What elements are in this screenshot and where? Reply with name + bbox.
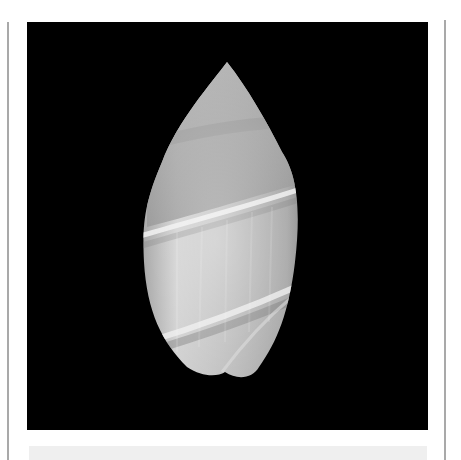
shell-photo bbox=[27, 22, 428, 430]
left-margin-rule bbox=[7, 22, 9, 460]
right-margin-rule bbox=[444, 20, 446, 460]
shell-illustration bbox=[27, 22, 428, 430]
caption-strip bbox=[29, 446, 427, 460]
